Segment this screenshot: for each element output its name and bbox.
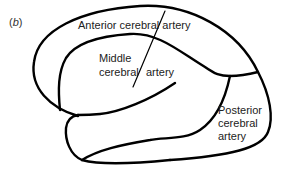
- posterior-cerebral-artery-label-line3: artery: [218, 130, 246, 142]
- posterior-cerebral-artery-label-line2: cerebral: [218, 117, 258, 129]
- middle-cerebral-artery-label-line3: artery: [146, 66, 174, 78]
- anterior-cerebral-artery-label: Anterior cerebral artery: [78, 19, 191, 31]
- middle-cerebral-artery-label-line2: cerebral: [99, 66, 139, 78]
- brain-arterial-territories-diagram: (b) Anterior cerebral artery Middle cere…: [0, 0, 290, 174]
- sylvian-fissure: [78, 83, 175, 115]
- panel-label: (b): [9, 16, 22, 28]
- posterior-cerebral-artery-label-line1: Posterior: [218, 104, 262, 116]
- middle-posterior-boundary: [82, 76, 230, 160]
- middle-cerebral-artery-label-line1: Middle: [99, 52, 131, 64]
